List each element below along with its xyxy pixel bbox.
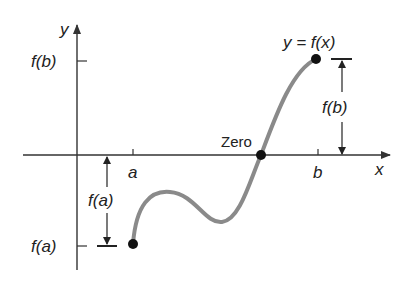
curve-label: y = f(x) [282,33,335,52]
point-a [128,239,138,249]
tick-label-fb: f(b) [31,52,57,71]
function-curve [133,59,316,244]
tick-label-a: a [128,163,137,182]
ivt-diagram: y x a b f(b) f(a) y = f(x) Zero f(b) f(a… [0,0,407,283]
diagram-svg: y x a b f(b) f(a) y = f(x) Zero f(b) f(a… [0,0,407,283]
tick-label-fa: f(a) [31,237,57,256]
point-zero [256,150,266,160]
zero-label: Zero [221,133,252,150]
y-axis-label: y [59,20,70,39]
x-axis-label: x [374,160,384,179]
tick-label-b: b [313,163,322,182]
measure-label-fb: f(b) [322,98,348,117]
point-b [311,54,321,64]
measure-label-fa: f(a) [88,191,114,210]
